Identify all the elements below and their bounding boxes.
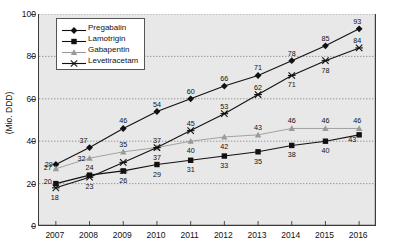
legend-label: Levetiracetam bbox=[88, 56, 138, 65]
series-line-lamotrigin bbox=[56, 135, 359, 184]
legend-label: Pregabalin bbox=[88, 23, 126, 32]
y-tick-mark-80 bbox=[31, 56, 36, 57]
x-tick-2009: 2009 bbox=[113, 230, 132, 240]
legend-item-levetiracetam[interactable]: Levetiracetam bbox=[61, 55, 138, 66]
x-tick-2011: 2011 bbox=[181, 230, 199, 240]
legend-label: Lamotrigin bbox=[88, 34, 125, 43]
series-line-gabapentin bbox=[56, 128, 359, 168]
legend-marker-diamond-icon bbox=[61, 22, 87, 33]
x-tick-2008: 2008 bbox=[79, 230, 98, 240]
x-tick-2014: 2014 bbox=[281, 230, 300, 240]
y-tick-mark-0 bbox=[31, 226, 36, 227]
x-tick-2013: 2013 bbox=[248, 230, 267, 240]
legend-marker-cross-icon bbox=[61, 55, 87, 66]
y-axis-tick-labels: 020406080100 bbox=[0, 0, 36, 246]
x-tick-2012: 2012 bbox=[214, 230, 233, 240]
x-tick-2010: 2010 bbox=[146, 230, 165, 240]
legend-item-gabapentin[interactable]: Gabapentin bbox=[61, 44, 138, 55]
y-tick-mark-20 bbox=[31, 184, 36, 185]
chart-figure: (Mio. DDD) 020406080100 2937465460667178… bbox=[0, 0, 419, 246]
legend: PregabalinLamotriginGabapentinLevetirace… bbox=[56, 18, 145, 70]
legend-marker-triangle-icon bbox=[61, 44, 87, 55]
legend-marker-square-icon bbox=[61, 33, 87, 44]
y-tick-mark-60 bbox=[31, 99, 36, 100]
x-tick-2015: 2015 bbox=[315, 230, 334, 240]
x-tick-2007: 2007 bbox=[45, 230, 64, 240]
series-lamotrigin bbox=[53, 132, 362, 186]
legend-item-pregabalin[interactable]: Pregabalin bbox=[61, 22, 138, 33]
x-tick-2016: 2016 bbox=[349, 230, 368, 240]
legend-label: Gabapentin bbox=[88, 45, 129, 54]
legend-item-lamotrigin[interactable]: Lamotrigin bbox=[61, 33, 138, 44]
y-tick-mark-40 bbox=[31, 141, 36, 142]
series-gabapentin bbox=[53, 125, 363, 171]
y-tick-mark-100 bbox=[31, 14, 36, 15]
x-axis-tick-labels: 2007200820092010201120122013201420152016 bbox=[0, 228, 419, 246]
